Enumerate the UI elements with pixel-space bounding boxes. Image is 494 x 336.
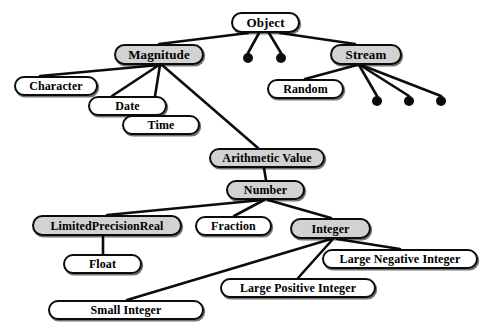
node-character[interactable]: Character (14, 76, 98, 96)
node-arithmetic-value[interactable]: Arithmetic Value (209, 148, 325, 168)
node-label-arithmetic-value: Arithmetic Value (220, 152, 313, 164)
node-small-integer[interactable]: Small Integer (48, 300, 204, 320)
node-label-integer: Integer (309, 222, 351, 234)
node-label-float: Float (87, 258, 118, 270)
node-label-stream: Stream (344, 48, 389, 61)
node-object[interactable]: Object (231, 12, 300, 33)
node-label-large-positive-integer: Large Positive Integer (238, 282, 358, 294)
node-label-limited-precision-real: LimitedPrecisionReal (48, 219, 165, 231)
node-float[interactable]: Float (63, 254, 142, 274)
cropped-header-text-artifact (4, 0, 144, 5)
node-label-small-integer: Small Integer (89, 304, 164, 316)
class-hierarchy-diagram: ObjectMagnitudeStreamCharacterRandomDate… (0, 0, 494, 336)
ellipsis-dot-stream-dot-1 (372, 96, 382, 106)
ellipsis-dot-stream-dot-2 (404, 96, 414, 106)
node-label-character: Character (27, 80, 85, 92)
node-label-time: Time (146, 119, 177, 131)
node-number[interactable]: Number (226, 180, 305, 200)
node-time[interactable]: Time (122, 115, 200, 135)
node-magnitude[interactable]: Magnitude (114, 44, 204, 65)
node-fraction[interactable]: Fraction (195, 216, 272, 236)
node-layer: ObjectMagnitudeStreamCharacterRandomDate… (0, 0, 494, 336)
node-label-object: Object (244, 16, 286, 29)
node-integer[interactable]: Integer (290, 218, 371, 239)
node-label-fraction: Fraction (209, 220, 258, 232)
node-date[interactable]: Date (88, 96, 167, 116)
node-stream[interactable]: Stream (330, 44, 402, 65)
ellipsis-dot-stream-dot-3 (436, 96, 446, 106)
node-label-random: Random (281, 83, 330, 95)
node-label-number: Number (242, 184, 289, 196)
node-large-positive-integer[interactable]: Large Positive Integer (220, 278, 376, 298)
ellipsis-dot-object-dot-1 (243, 53, 253, 63)
node-random[interactable]: Random (267, 79, 344, 99)
ellipsis-dot-object-dot-2 (276, 53, 286, 63)
node-label-date: Date (113, 100, 141, 112)
node-limited-precision-real[interactable]: LimitedPrecisionReal (32, 215, 182, 236)
node-large-negative-integer[interactable]: Large Negative Integer (322, 249, 478, 269)
node-label-large-negative-integer: Large Negative Integer (338, 253, 463, 265)
node-label-magnitude: Magnitude (126, 48, 192, 61)
